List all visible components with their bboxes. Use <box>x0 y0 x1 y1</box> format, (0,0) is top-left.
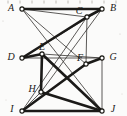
graph-edge-bh <box>41 9 102 92</box>
graph-vertex-f <box>84 62 88 66</box>
graph-canvas: ABCDEFGHIJ <box>0 0 127 116</box>
vertex-label-d: D <box>6 51 15 62</box>
vertex-label-a: A <box>7 2 15 13</box>
graph-vertex-c <box>85 15 89 19</box>
vertex-label-g: G <box>109 51 116 62</box>
scan-speck <box>6 100 7 101</box>
vertex-label-b: B <box>110 2 116 13</box>
graph-vertex-a <box>20 7 24 11</box>
vertex-label-f: F <box>76 52 84 63</box>
vertex-label-i: I <box>9 103 14 114</box>
graph-vertex-g <box>100 56 104 60</box>
scan-speck <box>2 20 3 21</box>
graph-vertex-d <box>20 56 24 60</box>
graph-edge-eh <box>41 54 42 92</box>
graph-figure: ABCDEFGHIJ <box>0 0 127 116</box>
vertex-label-c: C <box>76 5 83 16</box>
graph-vertex-e <box>40 52 44 56</box>
graph-vertex-h <box>39 90 43 94</box>
scan-speck <box>119 33 120 34</box>
vertex-label-h: H <box>27 83 36 94</box>
graph-vertex-i <box>20 109 24 113</box>
edge-layer <box>22 9 102 111</box>
graph-vertex-j <box>100 109 104 113</box>
vertex-label-j: J <box>111 103 116 114</box>
graph-edge-aj <box>22 9 102 111</box>
graph-edge-eg <box>42 54 102 58</box>
graph-vertex-b <box>100 7 104 11</box>
scan-artifact-layer <box>2 1 122 101</box>
vertex-label-e: E <box>38 41 45 52</box>
scan-speck <box>122 94 123 95</box>
